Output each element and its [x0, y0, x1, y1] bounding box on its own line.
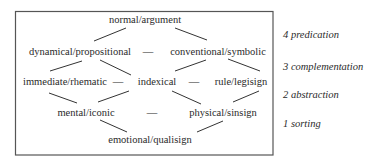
edge-immediate-mental: [49, 93, 77, 103]
node-indexical: indexical: [138, 76, 177, 87]
edge-rule-physical: [233, 91, 259, 102]
node-conventional-symbolic: conventional/symbolic: [170, 46, 266, 57]
edge-normal-dynamical: [94, 28, 126, 41]
node-mental-iconic: mental/iconic: [57, 107, 114, 118]
dash-immediate-indexical: —: [112, 76, 124, 87]
level-label-2: 2 abstraction: [283, 89, 339, 100]
dash-indexical-rule: —: [188, 76, 200, 87]
nodes: normal/argument dynamical/propositional …: [23, 14, 268, 145]
edge-physical-emotional: [197, 121, 223, 132]
edge-indexical-physical: [172, 91, 201, 104]
edge-mental-emotional: [100, 120, 127, 132]
node-dynamical-propositional: dynamical/propositional: [29, 46, 131, 57]
level-label-3: 3 complementation: [282, 61, 363, 72]
edge-dynamical-indexical: [100, 60, 131, 75]
edge-conventional-rule: [228, 59, 260, 71]
node-immediate-rhematic: immediate/rhematic: [23, 76, 107, 87]
level-label-4: 4 predication: [283, 29, 339, 40]
edge-normal-conventional: [175, 28, 207, 40]
dash-mental-physical: —: [146, 107, 158, 118]
node-physical-sinsign: physical/sinsign: [189, 107, 257, 118]
edge-conventional-indexical: [175, 60, 206, 71]
edge-dynamical-immediate: [50, 61, 82, 71]
node-rule-legisign: rule/legisign: [215, 76, 268, 87]
level-labels: 4 predication 3 complementation 2 abstra…: [282, 29, 363, 129]
semiotic-lattice-diagram: normal/argument dynamical/propositional …: [0, 0, 380, 162]
node-emotional-qualisign: emotional/qualisign: [108, 134, 192, 145]
node-normal-argument: normal/argument: [109, 14, 181, 25]
level-label-1: 1 sorting: [283, 118, 321, 129]
edge-indexical-mental: [98, 91, 129, 102]
dash-dynamical-conventional: —: [142, 46, 154, 57]
